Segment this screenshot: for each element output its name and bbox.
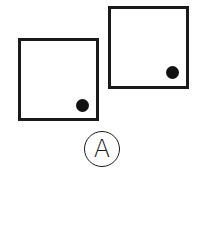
- dot-left: [76, 99, 89, 112]
- dot-right: [166, 66, 179, 79]
- option-label-circle: A: [84, 131, 120, 167]
- option-label: A: [94, 135, 110, 163]
